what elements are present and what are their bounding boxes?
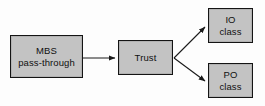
node-io-class: IO class (208, 8, 253, 43)
node-trust-label: Trust (135, 52, 157, 64)
node-po-label-line1: PO (224, 69, 238, 81)
edge-trust-to-io (174, 27, 205, 58)
node-mbs-pass-through: MBS pass-through (10, 35, 83, 78)
node-mbs-label-line2: pass-through (18, 57, 75, 69)
node-po-class: PO class (208, 63, 253, 98)
diagram-canvas: MBS pass-through Trust IO class PO class (0, 0, 265, 106)
node-po-label-line2: class (219, 81, 241, 93)
node-trust: Trust (118, 40, 173, 75)
node-mbs-label-line1: MBS (36, 45, 57, 57)
node-io-label-line2: class (219, 26, 241, 38)
node-io-label-line1: IO (225, 14, 235, 26)
edge-trust-to-po (174, 58, 205, 81)
